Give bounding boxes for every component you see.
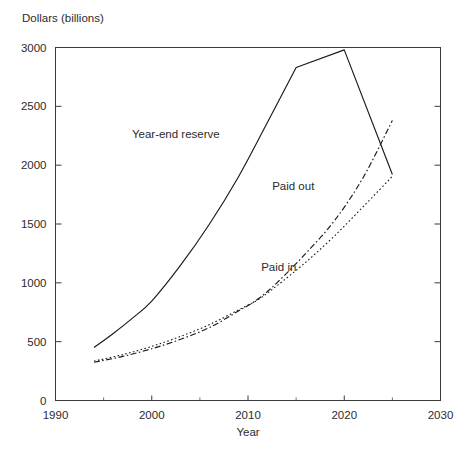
x-tick-label: 2010 (235, 409, 261, 421)
x-axis-title: Year (236, 426, 259, 438)
line-chart: Dollars (billions) 050010001500200025003… (0, 0, 469, 450)
y-axis-title: Dollars (billions) (22, 12, 104, 24)
y-tick-label: 1500 (21, 218, 47, 230)
y-tick-label: 2500 (21, 100, 47, 112)
x-tick-label: 2020 (331, 409, 357, 421)
series-label-paid-in: Paid in (261, 261, 296, 273)
y-tick-label: 0 (40, 395, 46, 407)
y-tick-label: 1000 (21, 277, 47, 289)
chart-container: Dollars (billions) 050010001500200025003… (0, 0, 469, 450)
x-tick-label: 2000 (139, 409, 165, 421)
x-tick-label: 2030 (428, 409, 454, 421)
y-tick-label: 2000 (21, 159, 47, 171)
y-tick-label: 500 (27, 336, 46, 348)
series-label-paid-out: Paid out (272, 180, 315, 192)
chart-background (0, 0, 469, 450)
y-tick-label: 3000 (21, 42, 47, 54)
x-tick-label: 1990 (43, 409, 69, 421)
series-label-year-end-reserve: Year-end reserve (132, 128, 220, 140)
